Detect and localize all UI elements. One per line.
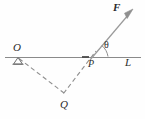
- label-angle-theta: θ: [104, 40, 109, 50]
- label-vector-F: F: [113, 2, 120, 13]
- label-point-P: P: [88, 59, 94, 69]
- vector-F-shaft: [90, 14, 129, 60]
- figure-canvas: [0, 0, 145, 119]
- dashed-segment-OQ: [19, 59, 64, 94]
- label-point-O: O: [13, 42, 21, 53]
- label-point-Q: Q: [60, 99, 68, 110]
- geometry-figure: O P L Q F θ: [0, 0, 145, 119]
- label-line-L: L: [125, 57, 131, 68]
